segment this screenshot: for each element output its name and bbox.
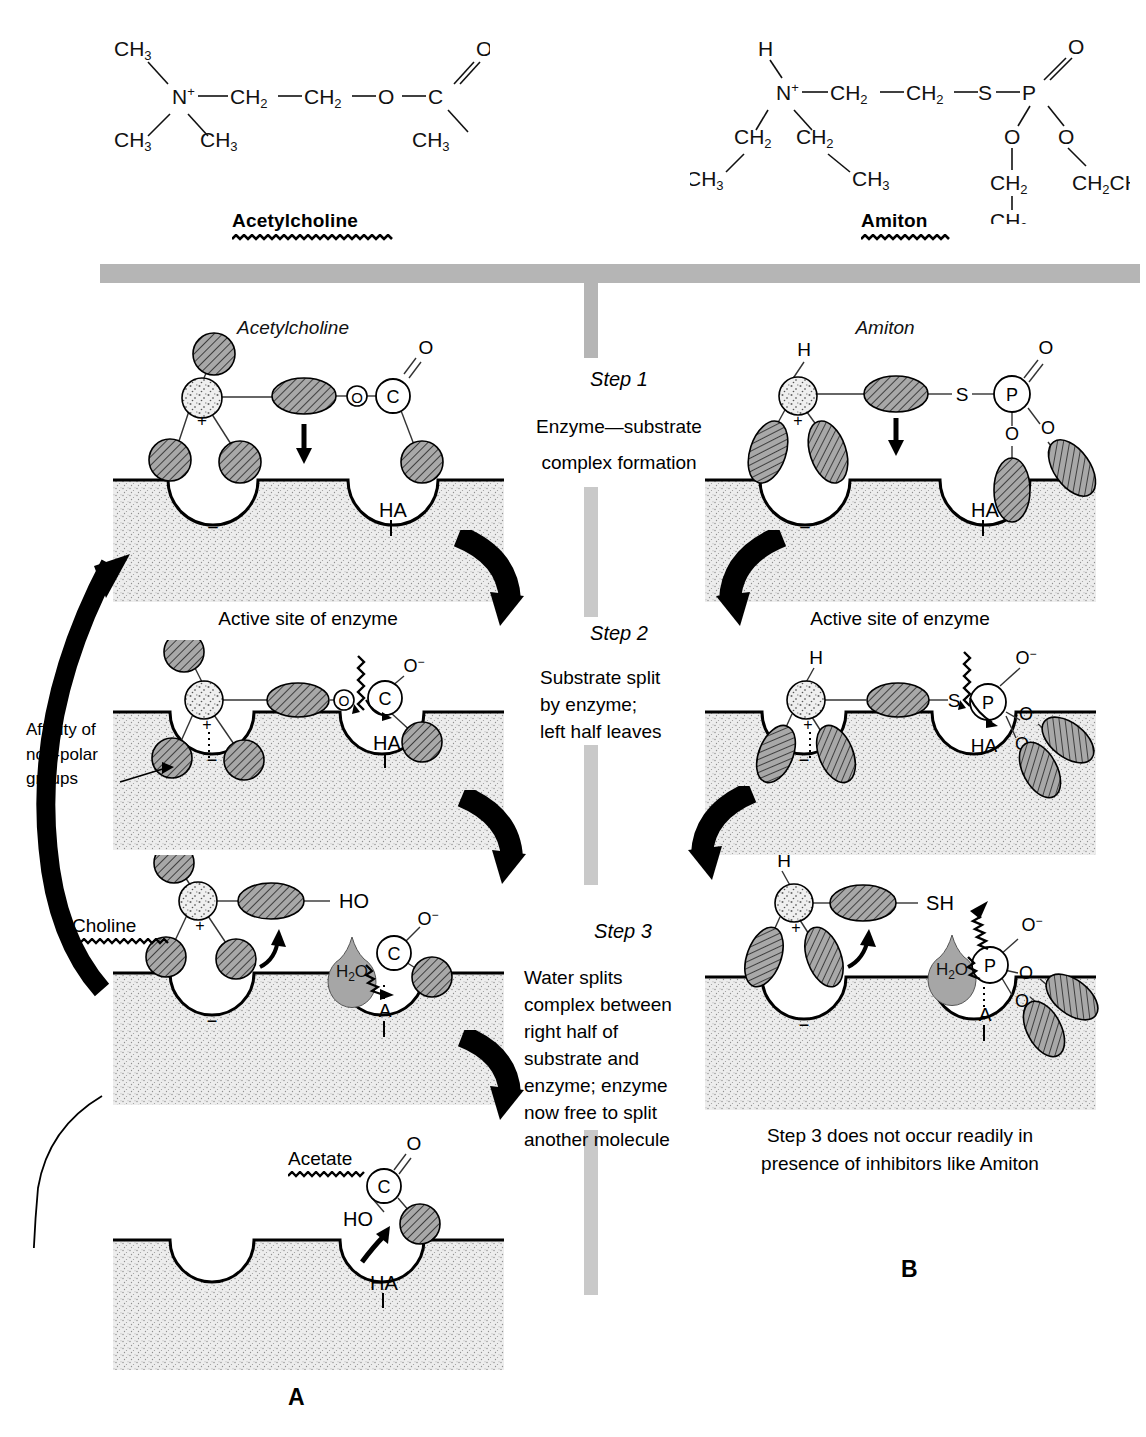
nitrogen-sphere (179, 882, 217, 920)
acetate-release-arrow-icon (362, 1226, 390, 1262)
nitrogen-charge-label: + (202, 716, 211, 733)
hydroxyl-label: HO (343, 1208, 373, 1230)
pocket-anionic-label: − (207, 1011, 218, 1031)
panel-b-row3: − A H + SH H2O P O− O O (700, 855, 1100, 1110)
pocket-anionic-label: − (207, 517, 218, 538)
svg-text:P: P (984, 956, 996, 976)
vertical-divider-bar (584, 283, 598, 358)
squiggle-underline-icon (232, 234, 397, 242)
panel-b-step3-caption: Step 3 does not occur readily in presenc… (700, 1122, 1100, 1177)
vertical-divider-bar-seg2 (584, 487, 598, 617)
nitrogen-sphere (775, 884, 813, 922)
atom-sulfur: S (978, 81, 992, 104)
ester-oxygen-label: O (1041, 418, 1055, 438)
methyl-group-sphere (154, 855, 194, 883)
step-2-title: Step 2 (508, 622, 730, 645)
ethyl-group-ellipse (801, 416, 855, 488)
choline-release-arrow-icon (260, 929, 286, 967)
svg-text:P: P (1006, 385, 1018, 405)
methyl-group-sphere (219, 441, 261, 483)
step-1-block: Step 1 Enzyme—substrate complex formatio… (508, 368, 730, 481)
hydroxyl-label: HO (339, 890, 369, 912)
svg-text:O: O (339, 693, 350, 709)
panel-b-letter: B (901, 1256, 918, 1283)
panel-a-row1: Acetylcholine − HA + O C O (108, 312, 508, 602)
carbonyl-oxygen-label: O (407, 1133, 422, 1154)
vertical-divider-bar-seg3 (584, 745, 598, 885)
methylene-group-ellipse (830, 885, 896, 921)
acetylcholine-name-label: Acetylcholine (232, 210, 432, 242)
atom-ch2ch3: CH2CH3 (1072, 171, 1130, 197)
squiggle-underline-icon (288, 1171, 368, 1179)
pocket-anionic-label: − (207, 750, 218, 770)
atom-oxygen-double: O (1068, 35, 1084, 58)
ester-oxygen-label: O (1019, 963, 1033, 983)
hydrogen-label: H (797, 339, 811, 360)
pocket-esteratic-label: HA (379, 499, 407, 521)
svg-text:P: P (982, 693, 994, 713)
atom-phosphorus: P (1022, 81, 1036, 104)
atom-carbon: C (428, 85, 443, 108)
acetylcholine-structure-formula: CH3 CH3 CH3 N+ CH2 CH2 O C O CH3 (90, 14, 490, 194)
pocket-anionic-label: − (799, 1015, 810, 1035)
methylene-group-ellipse (272, 378, 336, 414)
atom-ch3-bottom-left: CH3 (114, 128, 152, 154)
ester-oxygen-label: O (1019, 704, 1033, 724)
atom-ch2-b: CH2 (304, 85, 342, 111)
atom-hydrogen: H (758, 37, 773, 60)
atom-carbonyl-oxygen: O (476, 37, 490, 60)
svg-text:O: O (351, 389, 363, 406)
panel-a-row3: − A + HO H2O C O− (108, 855, 508, 1105)
oxygen-anion-label: O− (1015, 647, 1036, 668)
ethyl-group-ellipse (741, 416, 795, 488)
methylene-group-ellipse (867, 683, 929, 717)
phosphoryl-oxygen-label: O (1039, 337, 1054, 358)
panel-b-step1-to-2-arrow-icon (712, 530, 792, 630)
nitrogen-sphere (787, 681, 825, 719)
methylene-group-ellipse (267, 683, 329, 717)
acetate-label: Acetate (288, 1148, 368, 1179)
atom-oxygen-left: O (1004, 125, 1020, 148)
atom-ch2-a: CH2 (830, 81, 868, 107)
atom-ch3-bottom-mid: CH3 (200, 128, 238, 154)
nitrogen-charge-label: + (195, 917, 204, 934)
vertical-divider-bar-seg4 (584, 1130, 598, 1295)
methyl-group-sphere (402, 722, 442, 762)
atom-nitrogen: N+ (776, 80, 799, 104)
ethyl-group-ellipse (797, 922, 850, 992)
nitrogen-charge-label: + (793, 412, 802, 429)
nitrogen-sphere (779, 377, 817, 415)
atom-oxygen-right: O (1058, 125, 1074, 148)
methyl-group-sphere (400, 1204, 440, 1244)
nitrogen-charge-label: + (197, 411, 207, 430)
pocket-acyl-label: A (979, 1004, 992, 1025)
amiton-name-label: Amiton (861, 210, 1021, 242)
horizontal-divider-bar (100, 264, 1140, 283)
atom-ch2-a: CH2 (230, 85, 268, 111)
nitrogen-charge-label: + (791, 919, 800, 936)
oxygen-anion-label: O− (417, 908, 438, 929)
svg-text:C: C (388, 944, 401, 964)
methyl-group-sphere (224, 740, 264, 780)
atom-ch2-lower: CH2 (990, 171, 1028, 197)
hydrogen-label: H (777, 855, 791, 871)
pocket-acyl-label: A (379, 1000, 392, 1021)
bond-cleavage-squiggle (964, 652, 970, 706)
atom-ch2-mid: CH2 (796, 125, 834, 151)
methylene-group-ellipse (238, 883, 304, 919)
panel-b-step2-to-3-arrow-icon (684, 786, 764, 886)
methyl-group-sphere (401, 441, 443, 483)
ester-oxygen-label: O (1005, 424, 1019, 444)
pocket-anionic-label: − (799, 750, 810, 770)
methyl-group-sphere (412, 957, 452, 997)
sulfur-label: S (956, 384, 969, 405)
ethoxy-group-ellipse (994, 458, 1030, 522)
squiggle-underline-icon (861, 234, 953, 242)
bond-cleavage-squiggle (358, 656, 364, 710)
atom-ch3-mid: CH3 (852, 167, 890, 193)
hydrogen-label: H (809, 647, 823, 668)
panel-a-row2: − HA + O C O− (108, 640, 508, 850)
enzyme-recycle-arrow-icon (24, 548, 144, 1248)
enzyme-slab (113, 1240, 504, 1370)
nitrogen-charge-label: + (803, 716, 812, 733)
